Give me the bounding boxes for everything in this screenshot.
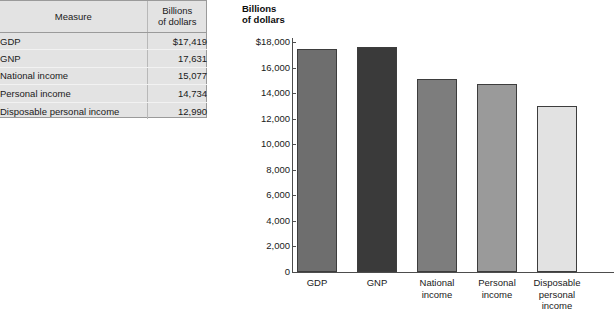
y-axis-tick	[292, 42, 296, 43]
bar-category-label-line: National	[405, 277, 469, 289]
cell-value: 14,734	[147, 85, 207, 102]
measure-table: Measure Billions of dollars GDP $17,419 …	[0, 0, 207, 118]
bar-category-label-line: income	[465, 289, 529, 301]
y-axis-tick	[292, 195, 296, 196]
bar-category-label-line: income	[405, 289, 469, 301]
bar-category-label: GDP	[285, 277, 349, 289]
table-row: GDP $17,419	[0, 33, 207, 50]
table-row: Disposable personal income 12,990	[0, 102, 207, 119]
y-axis-tick	[292, 221, 296, 222]
cell-measure: GNP	[0, 50, 147, 67]
bar-category-label-line: Disposable	[525, 277, 589, 289]
y-axis-tick-labels: $18,00016,00014,00012,00010,0008,0006,00…	[240, 0, 290, 312]
x-axis-line	[292, 272, 614, 273]
bar-chart: Billions of dollars $18,00016,00014,0001…	[240, 0, 616, 312]
cell-value: 15,077	[147, 67, 207, 84]
cell-value: 12,990	[147, 102, 207, 119]
y-axis-tick	[292, 246, 296, 247]
bar-category-label-line: GNP	[345, 277, 409, 289]
cell-measure: GDP	[0, 33, 147, 50]
y-axis-tick	[292, 93, 296, 94]
bar	[297, 49, 337, 272]
bar-category-label: Personalincome	[465, 277, 529, 300]
y-axis-tick	[292, 68, 296, 69]
bar	[417, 79, 457, 272]
cell-measure: Disposable personal income	[0, 102, 147, 119]
y-axis-tick-label: $18,000	[242, 36, 290, 47]
bar-category-label-line: GDP	[285, 277, 349, 289]
cell-value: $17,419	[147, 33, 207, 50]
column-header-measure: Measure	[0, 1, 147, 33]
y-axis-tick-label: 8,000	[242, 164, 290, 175]
table-body: GDP $17,419 GNP 17,631 National income 1…	[0, 33, 207, 120]
y-axis-tick	[292, 272, 296, 273]
y-axis-tick-label: 4,000	[242, 215, 290, 226]
cell-value: 17,631	[147, 50, 207, 67]
table-row: National income 15,077	[0, 67, 207, 84]
y-axis-tick-label: 10,000	[242, 138, 290, 149]
bar	[477, 84, 517, 272]
bar-category-label: GNP	[345, 277, 409, 289]
y-axis-tick	[292, 144, 296, 145]
bar-category-label: Nationalincome	[405, 277, 469, 300]
table-header: Measure Billions of dollars	[0, 1, 207, 33]
column-header-line1: Billions	[148, 6, 208, 17]
table-header-row: Measure Billions of dollars	[0, 1, 207, 33]
cell-measure: Personal income	[0, 85, 147, 102]
y-axis-line	[292, 38, 293, 272]
y-axis-tick-label: 12,000	[242, 113, 290, 124]
bar-category-label-line: income	[525, 300, 589, 312]
bar-category-label: Disposablepersonalincome	[525, 277, 589, 312]
y-axis-tick	[292, 170, 296, 171]
y-axis-tick-label: 6,000	[242, 189, 290, 200]
y-axis-tick-label: 0	[242, 266, 290, 277]
cell-measure: National income	[0, 67, 147, 84]
y-axis-tick-label: 14,000	[242, 87, 290, 98]
bar	[357, 47, 397, 272]
column-header-billions-of-dollars: Billions of dollars	[147, 1, 207, 33]
bar-category-label-line: personal	[525, 289, 589, 301]
y-axis-tick-label: 16,000	[242, 62, 290, 73]
column-header-line2: of dollars	[148, 17, 208, 28]
bar	[537, 106, 577, 272]
bar-category-label-line: Personal	[465, 277, 529, 289]
table-row: Personal income 14,734	[0, 85, 207, 102]
measure-table-grid: Measure Billions of dollars GDP $17,419 …	[0, 1, 207, 119]
y-axis-tick	[292, 119, 296, 120]
y-axis-tick-label: 2,000	[242, 240, 290, 251]
table-row: GNP 17,631	[0, 50, 207, 67]
